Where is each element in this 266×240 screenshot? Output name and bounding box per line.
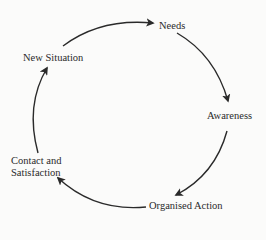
arrow-contact-to-new-situation xyxy=(33,68,47,153)
arrow-awareness-to-organised-action xyxy=(176,131,227,195)
node-new-situation: New Situation xyxy=(23,52,83,64)
arrow-new-situation-to-needs xyxy=(63,22,153,46)
node-needs: Needs xyxy=(159,20,185,32)
node-organised-action: Organised Action xyxy=(149,200,223,212)
node-contact-line2: Satisfaction xyxy=(11,167,61,179)
arrow-needs-to-awareness xyxy=(177,33,228,101)
node-contact-satisfaction: Contact and Satisfaction xyxy=(11,155,61,179)
arrow-organised-action-to-contact xyxy=(58,178,146,208)
node-awareness: Awareness xyxy=(207,110,252,122)
node-contact-line1: Contact and xyxy=(11,155,61,167)
